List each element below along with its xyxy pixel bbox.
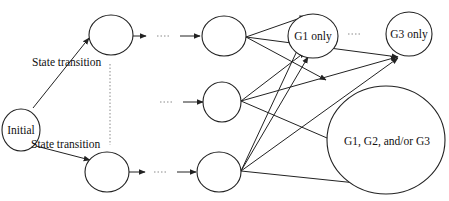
label-g1-only: G1 only [294, 30, 332, 43]
node-top-2 [202, 16, 246, 56]
label-g-any: G1, G2, and/or G3 [344, 135, 430, 148]
node-top-1 [89, 15, 133, 55]
label-g3-only: G3 only [390, 28, 428, 41]
node-bottom-1 [85, 152, 129, 192]
edge-mid-to-g1 [241, 52, 305, 101]
label-state-transition-upper: State transition [32, 56, 102, 68]
state-transition-diagram: Initial G1 only G3 only G1, G2, and/or G… [0, 0, 449, 201]
edge-initial-to-top [33, 38, 89, 108]
node-bottom-2 [197, 152, 241, 192]
edge-bottom2-to-g1-b [241, 57, 308, 171]
label-state-transition-lower: State transition [31, 138, 101, 150]
edge-mid-to-gany [241, 101, 334, 141]
node-mid [203, 82, 241, 122]
label-initial: Initial [7, 124, 34, 136]
